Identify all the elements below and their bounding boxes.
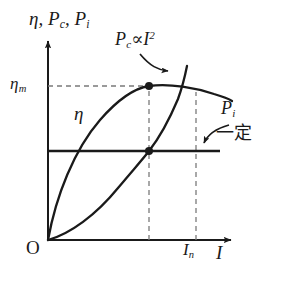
- annotation-pc: Pc∝I2: [115, 30, 155, 50]
- annotation-pi-constant: 一定: [216, 124, 251, 142]
- annotation-pi-sub: i: [232, 107, 235, 119]
- annotation-pi-p: P: [221, 98, 232, 118]
- pointer-arrow-pc: [140, 54, 168, 71]
- figure-root: η, Pc, Pi I O ηm In η Pc∝I2 Pi 一定: [0, 0, 282, 282]
- x-tick-i-sub: n: [189, 249, 194, 260]
- y-tick-eta-sub: m: [18, 83, 26, 94]
- annotation-pc-prop-icon: ∝: [131, 29, 143, 49]
- x-axis-label: I: [216, 243, 222, 262]
- y-axis-label-sub-i: i: [86, 18, 89, 31]
- curve-pc: [48, 66, 187, 240]
- x-tick-i: I: [183, 240, 189, 259]
- annotation-pc-exp: 2: [149, 29, 155, 41]
- y-axis-label-eta: η, P: [29, 8, 60, 29]
- curve-label-eta: η: [74, 104, 83, 123]
- y-axis-label-mid: , P: [65, 8, 86, 29]
- origin-label: O: [26, 238, 40, 257]
- x-tick-label-in: In: [183, 241, 194, 260]
- marker-eta-peak: [145, 82, 153, 90]
- y-tick-label-eta-max: ηm: [10, 75, 26, 94]
- marker-pc-pi-intersection: [145, 147, 153, 155]
- annotation-pi: Pi: [221, 99, 235, 119]
- y-axis-label: η, Pc, Pi: [29, 9, 90, 31]
- annotation-pc-p: P: [115, 29, 126, 49]
